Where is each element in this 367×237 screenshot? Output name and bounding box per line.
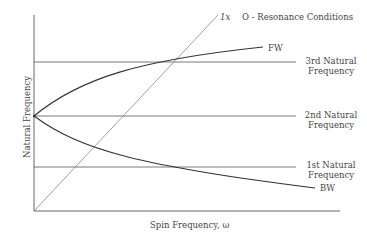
second-natural-frequency-label: 2nd Natural Frequency bbox=[300, 110, 362, 130]
third-natural-frequency-label: 3rd Natural Frequency bbox=[300, 56, 362, 76]
x-axis-label: Spin Frequency, ω bbox=[150, 220, 229, 230]
origin-marker bbox=[33, 115, 35, 117]
forward-whirl-label: FW bbox=[268, 43, 283, 53]
forward-whirl-curve bbox=[34, 47, 263, 116]
one-x-label: 1x bbox=[220, 12, 230, 22]
backward-whirl-label: BW bbox=[320, 183, 335, 193]
first-natural-frequency-label: 1st Natural Frequency bbox=[300, 160, 362, 180]
one-x-line bbox=[34, 15, 218, 211]
y-axis-label: Natural Frequency bbox=[22, 72, 32, 162]
resonance-legend: O - Resonance Conditions bbox=[242, 12, 353, 22]
backward-whirl-curve bbox=[34, 116, 315, 188]
